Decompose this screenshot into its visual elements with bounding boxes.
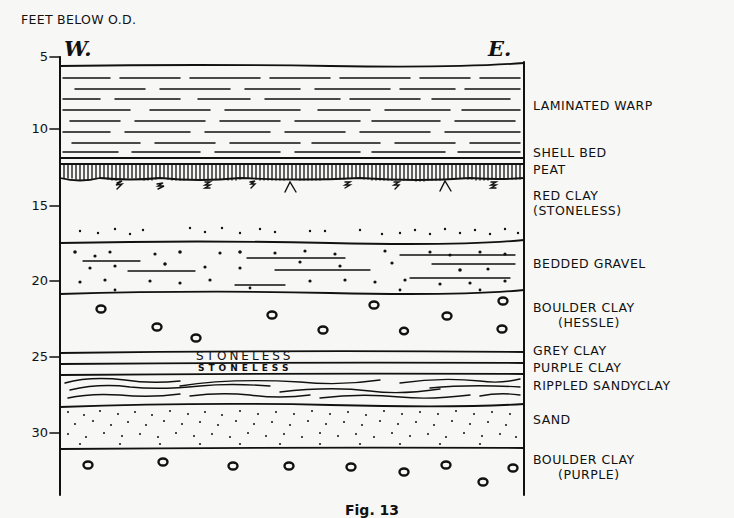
layer-label-boulder-clay-purple: BOULDER CLAY(PURPLE) [533, 452, 635, 482]
layer-label-purple-clay: PURPLE CLAY [533, 360, 621, 375]
layer-label-peat: PEAT [533, 162, 566, 177]
layer-label-grey-clay: GREY CLAY [533, 343, 607, 358]
stoneless-note-grey: STONELESS [196, 349, 293, 363]
layer-label-laminated-warp: LAMINATED WARP [533, 98, 653, 113]
layer-label-bedded-gravel: BEDDED GRAVEL [533, 256, 646, 271]
figure-caption: Fig. 13 [345, 502, 399, 518]
layer-label-boulder-clay-hessle: BOULDER CLAY(HESSLE) [533, 300, 635, 330]
layer-label-shell-bed: SHELL BED [533, 145, 607, 160]
layer-label-sand: SAND [533, 412, 571, 427]
layer-label-red-clay: RED CLAY(STONELESS) [533, 188, 622, 218]
stoneless-note-purple: STONELESS [198, 363, 292, 373]
layer-label-rippled-sandy-clay: RIPPLED SANDYCLAY [533, 378, 671, 393]
